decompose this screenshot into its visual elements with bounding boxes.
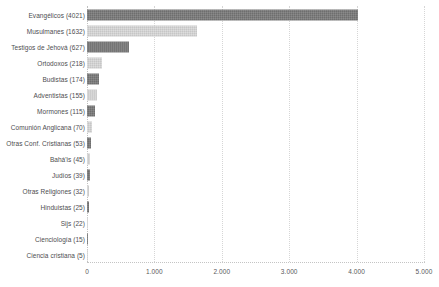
x-tick-label: 3.000 xyxy=(281,268,298,275)
bar-row: Judíos (39) xyxy=(0,166,439,183)
category-label: Musulmanes (1632) xyxy=(27,27,85,34)
bar xyxy=(87,89,97,100)
category-label: Ciencia cristiana (5) xyxy=(27,251,86,258)
category-label: Evangélicos (4021) xyxy=(28,11,85,18)
category-label: Testigos de Jehová (627) xyxy=(11,43,85,50)
x-axis-line xyxy=(87,262,425,263)
bar xyxy=(87,137,91,148)
bar-row: Sijs (22) xyxy=(0,214,439,231)
bar xyxy=(87,217,88,228)
bar xyxy=(87,41,129,52)
bar-row: Mormones (115) xyxy=(0,102,439,119)
bar xyxy=(87,25,197,36)
bar xyxy=(87,249,88,260)
category-label: Comunión Anglicana (70) xyxy=(11,123,85,130)
bar-row: Musulmanes (1632) xyxy=(0,22,439,39)
x-tick-label: 2.000 xyxy=(213,268,230,275)
bar-row: Evangélicos (4021) xyxy=(0,6,439,23)
bar-row: Testigos de Jehová (627) xyxy=(0,38,439,55)
category-label: Judíos (39) xyxy=(52,171,85,178)
bar xyxy=(87,121,92,132)
bar-row: Cienciología (15) xyxy=(0,230,439,247)
bar xyxy=(87,233,88,244)
bar xyxy=(87,57,102,68)
x-tick-label: 4.000 xyxy=(348,268,365,275)
category-label: Otras Conf. Cristianas (53) xyxy=(6,139,85,146)
category-label: Bahá'is (45) xyxy=(50,155,85,162)
plot-area: Evangélicos (4021)Musulmanes (1632)Testi… xyxy=(0,0,439,287)
bar-row: Hinduistas (25) xyxy=(0,198,439,215)
bar-row: Ciencia cristiana (5) xyxy=(0,246,439,263)
bar-row: Ortodoxos (218) xyxy=(0,54,439,71)
x-tick-label: 5.000 xyxy=(416,268,433,275)
bar xyxy=(87,169,90,180)
category-label: Mormones (115) xyxy=(37,107,85,114)
bar xyxy=(87,153,90,164)
bar-row: Adventistas (155) xyxy=(0,86,439,103)
bar xyxy=(87,73,99,84)
bar-row: Otras Conf. Cristianas (53) xyxy=(0,134,439,151)
bar xyxy=(87,9,358,20)
bar-row: Budistas (174) xyxy=(0,70,439,87)
category-label: Ortodoxos (218) xyxy=(37,59,85,66)
bar-row: Otras Religiones (32) xyxy=(0,182,439,199)
x-tick-label: 1.000 xyxy=(146,268,163,275)
bar-row: Comunión Anglicana (70) xyxy=(0,118,439,135)
bar xyxy=(87,185,89,196)
bar xyxy=(87,201,89,212)
category-label: Budistas (174) xyxy=(42,75,85,82)
bar-row: Bahá'is (45) xyxy=(0,150,439,167)
x-tick-label: 0 xyxy=(85,268,89,275)
category-label: Sijs (22) xyxy=(61,219,85,226)
category-label: Otras Religiones (32) xyxy=(23,187,85,194)
category-label: Adventistas (155) xyxy=(34,91,85,98)
bar xyxy=(87,105,95,116)
bar-chart: Evangélicos (4021)Musulmanes (1632)Testi… xyxy=(0,0,439,287)
category-label: Hinduistas (25) xyxy=(41,203,85,210)
category-label: Cienciología (15) xyxy=(35,235,85,242)
